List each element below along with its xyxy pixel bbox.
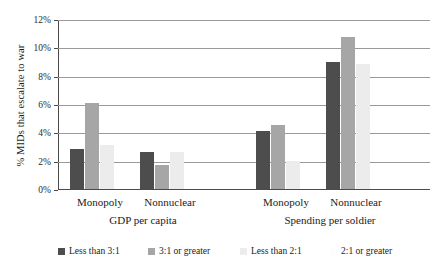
category-label: Nonnuclear	[330, 196, 381, 208]
bar-group	[140, 19, 200, 189]
y-axis-tick-label: 8%	[38, 72, 51, 82]
bar	[286, 161, 300, 189]
bar-group	[256, 19, 316, 189]
bar-group	[70, 19, 130, 189]
legend-swatch	[240, 248, 247, 255]
category-label-row: MonopolyNonnuclearMonopolyNonnuclear	[58, 196, 430, 212]
bar	[155, 165, 169, 189]
y-axis-tick	[54, 190, 58, 191]
bar	[356, 64, 370, 189]
bar	[341, 37, 355, 189]
y-axis-title: % MIDs that escalate to war	[15, 16, 26, 196]
bar-chart: % MIDs that escalate to war 0%2%4%6%8%10…	[0, 0, 439, 270]
y-axis-tick	[54, 133, 58, 134]
y-axis-tick	[54, 20, 58, 21]
bar	[256, 131, 270, 189]
group-label-row: GDP per capitaSpending per soldier	[58, 214, 430, 232]
x-axis-line	[58, 189, 430, 190]
bar	[85, 103, 99, 189]
bar-group	[326, 19, 386, 189]
y-axis-tick	[54, 162, 58, 163]
y-axis-tick-label: 2%	[38, 157, 51, 167]
y-axis-tick-label: 6%	[38, 100, 51, 110]
legend-swatch	[58, 248, 65, 255]
y-axis-tick-label: 4%	[38, 128, 51, 138]
legend-swatch	[148, 248, 155, 255]
bar	[140, 152, 154, 189]
y-axis-tick-label: 12%	[34, 15, 51, 25]
legend-label: Less than 2:1	[251, 246, 302, 256]
y-axis-tick	[54, 77, 58, 78]
chart-legend: Less than 3:13:1 or greaterLess than 2:1…	[58, 246, 439, 262]
bar	[170, 152, 184, 189]
category-label: Monopoly	[263, 196, 309, 208]
y-axis-tick-label: 0%	[38, 185, 51, 195]
legend-item[interactable]: 2:1 or greater	[330, 246, 392, 256]
category-label: Monopoly	[77, 196, 123, 208]
y-axis-tick	[54, 105, 58, 106]
bar	[326, 62, 340, 190]
legend-label: Less than 3:1	[69, 246, 120, 256]
legend-swatch	[330, 248, 337, 255]
legend-item[interactable]: Less than 2:1	[240, 246, 302, 256]
group-label: Spending per soldier	[284, 214, 375, 226]
y-axis-tick-label: 10%	[34, 43, 51, 53]
bar	[271, 125, 285, 189]
category-label: Nonnuclear	[144, 196, 195, 208]
legend-item[interactable]: 3:1 or greater	[148, 246, 210, 256]
legend-item[interactable]: Less than 3:1	[58, 246, 120, 256]
group-label: GDP per capita	[109, 214, 176, 226]
plot-area: 0%2%4%6%8%10%12%	[58, 20, 430, 190]
bar	[100, 145, 114, 189]
y-axis-tick	[54, 48, 58, 49]
legend-label: 3:1 or greater	[159, 246, 210, 256]
bar	[70, 149, 84, 189]
legend-label: 2:1 or greater	[341, 246, 392, 256]
